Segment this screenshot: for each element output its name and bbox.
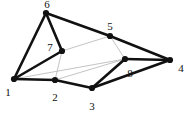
node-label-3: 3 xyxy=(89,101,95,112)
node-1[interactable] xyxy=(11,76,17,82)
node-label-6: 6 xyxy=(44,0,50,10)
edge-7-5 xyxy=(62,36,110,51)
node-label-2: 2 xyxy=(52,92,58,103)
node-4[interactable] xyxy=(167,57,173,63)
edge-8-4 xyxy=(125,59,170,60)
edge-5-4 xyxy=(110,36,170,60)
node-5[interactable] xyxy=(107,33,113,39)
node-8[interactable] xyxy=(122,56,128,62)
node-label-5: 5 xyxy=(107,21,113,32)
node-label-8: 8 xyxy=(127,68,133,79)
thick-edge-group xyxy=(14,13,170,88)
edge-2-3 xyxy=(55,80,92,88)
node-3[interactable] xyxy=(89,85,95,91)
node-label-4: 4 xyxy=(178,63,184,74)
node-7[interactable] xyxy=(59,48,65,54)
node-2[interactable] xyxy=(52,77,58,83)
node-label-7: 7 xyxy=(47,42,53,53)
graph-figure: 12345678 xyxy=(0,0,190,116)
edge-3-8 xyxy=(92,59,125,88)
node-6[interactable] xyxy=(43,10,49,16)
edge-1-2 xyxy=(14,79,55,80)
node-label-1: 1 xyxy=(5,87,11,98)
